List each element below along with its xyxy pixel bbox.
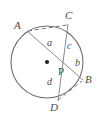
vertex-label-b: B: [85, 74, 92, 85]
chord-cd: [58, 24, 68, 101]
circle-center-dot: [45, 60, 49, 64]
segment-label-d: d: [47, 77, 52, 87]
segment-label-b: b: [75, 58, 80, 68]
segment-label-a: a: [47, 38, 52, 48]
vertex-label-d: D: [50, 102, 58, 113]
vertex-label-a: A: [14, 20, 21, 31]
dashed-chord-db: [58, 81, 82, 100]
intersection-point-label-p: P: [58, 66, 64, 77]
geometry-figure: A C B D P a c b d: [0, 0, 100, 117]
vertex-label-c: C: [65, 10, 72, 21]
geometry-diagram-svg: [0, 0, 100, 117]
segment-label-c: c: [67, 41, 71, 51]
